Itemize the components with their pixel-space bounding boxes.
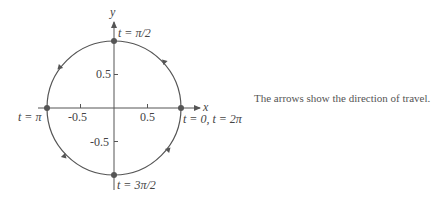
y-axis-label: y [109, 5, 116, 19]
label-t-3pi-over-2: t = 3π/2 [117, 178, 156, 192]
label-t-pi: t = π [18, 110, 42, 124]
direction-arrow-icon [160, 57, 168, 65]
point-t-pi [44, 105, 50, 111]
y-tick-label-neg: -0.5 [90, 135, 109, 149]
caption: The arrows show the direction of travel. [254, 92, 430, 104]
x-tick-label-pos: 0.5 [140, 110, 155, 124]
point-t-0 [178, 105, 184, 111]
y-tick-label-pos: 0.5 [96, 67, 111, 81]
x-tick-label-neg: -0.5 [68, 110, 87, 124]
label-t-pi-over-2: t = π/2 [118, 26, 151, 40]
point-t-pi-over-2 [111, 38, 117, 44]
label-t-0: t = 0, t = 2π [183, 112, 243, 126]
